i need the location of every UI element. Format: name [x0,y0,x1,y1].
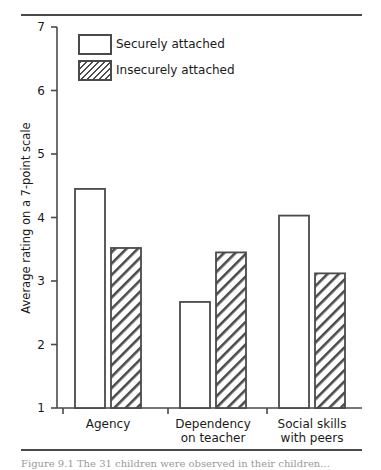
bar-2-2 [216,252,246,408]
bar-1-2 [111,248,141,408]
figure-container: Average rating on a 7-point scale 123456… [0,0,381,470]
legend-swatch-hatched-icon [78,60,112,81]
x-axis-label-social-skills-with-peers: Social skillswith peers [257,417,367,445]
y-axis-tick-1: 1 [27,402,45,414]
x-axis-label-line1: Agency [53,417,163,431]
y-axis-tick-5: 5 [27,148,45,160]
chart-legend: Securely attached Insecurely attached [78,34,235,86]
x-axis-label-agency: Agency [53,417,163,431]
legend-label-securely-attached: Securely attached [116,38,225,51]
bar-chart: Average rating on a 7-point scale 123456… [0,0,381,470]
legend-swatch-white-icon [78,34,112,55]
y-axis-tick-7: 7 [27,21,45,33]
y-axis-tick-6: 6 [27,85,45,97]
legend-item-insecurely-attached: Insecurely attached [78,60,235,81]
x-axis-label-dependency-on-teacher: Dependencyon teacher [158,417,268,445]
x-axis-label-line2: on teacher [158,431,268,445]
y-axis-tick-4: 4 [27,212,45,224]
legend-label-insecurely-attached: Insecurely attached [116,64,235,77]
legend-item-securely-attached: Securely attached [78,34,235,55]
bar-1-1 [75,189,105,408]
x-axis-label-line1: Dependency [158,417,268,431]
bar-3-1 [279,216,309,408]
y-axis-tick-2: 2 [27,339,45,351]
figure-caption: Figure 9.1 The 31 children were observed… [21,458,366,469]
x-axis-label-line1: Social skills [257,417,367,431]
bar-3-2 [315,273,345,408]
y-axis-tick-3: 3 [27,275,45,287]
x-axis-label-line2: with peers [257,431,367,445]
bar-2-1 [180,302,210,408]
